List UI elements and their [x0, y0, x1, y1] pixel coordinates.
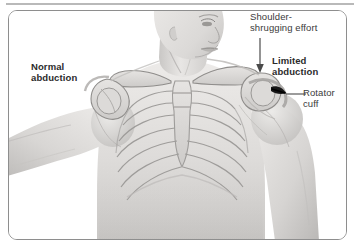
- label-rotator-cuff: Rotator cuff: [303, 88, 335, 109]
- label-limited-abduction: Limited abduction: [272, 56, 318, 77]
- figure-root: Normal abduction Limited abduction Shoul…: [0, 0, 354, 251]
- top-divider-rule: [6, 3, 354, 5]
- label-normal-abduction: Normal abduction: [31, 62, 77, 83]
- shoulder-shrug-arrow: [252, 38, 270, 74]
- anatomy-illustration: [9, 11, 346, 239]
- illustration-frame: [8, 10, 347, 240]
- illustration-canvas: [9, 11, 346, 239]
- label-shoulder-shrugging-effort: Shoulder- shrugging effort: [250, 12, 317, 33]
